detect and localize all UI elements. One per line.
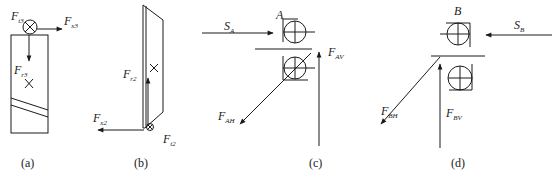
label-fbh: FBH [380,104,399,120]
label-ft3: Ft3 [10,9,24,25]
label-fx3: Fx3 [63,14,78,30]
label-fr3: Fr3 [13,63,28,79]
into-page-symbol-icon [147,124,154,131]
bearing-b-bottom-icon [448,64,472,90]
label-a: A [275,8,284,22]
panel-a: Ft3 Fx3 Fr3 (a) [10,9,78,170]
center-x-mark-icon [25,79,33,88]
caption-a: (a) [21,156,34,170]
caption-b: (b) [134,156,148,170]
label-fbv: FBV [445,106,463,122]
label-fah: FAH [217,109,236,125]
panel-b: Fr2 Fx2 Ft2 (b) [92,5,176,170]
bearing-b-top-icon [440,23,470,47]
label-fx2: Fx2 [92,111,107,127]
label-ft2: Ft2 [162,132,176,148]
label-sb: SB [514,18,525,34]
label-fr2: Fr2 [122,67,137,83]
caption-d: (d) [451,156,465,170]
into-page-symbol-icon [23,20,37,34]
bearing-a-top-icon [283,19,315,43]
label-fav: FAV [327,45,344,61]
caption-c: (c) [309,156,322,170]
force-diagram: Ft3 Fx3 Fr3 (a) Fr2 Fx2 Ft2 (b) [0,0,556,177]
panel-c: SA A FAV FAH (c) [202,8,344,170]
panel-d: B SB FBH FBV (d) [380,4,552,170]
helix-line-1 [11,98,48,110]
label-sa: SA [224,19,235,35]
label-b: B [454,4,462,18]
helix-line-2 [11,105,48,117]
fah-arrow [240,53,311,124]
center-x-mark-icon [150,64,158,72]
